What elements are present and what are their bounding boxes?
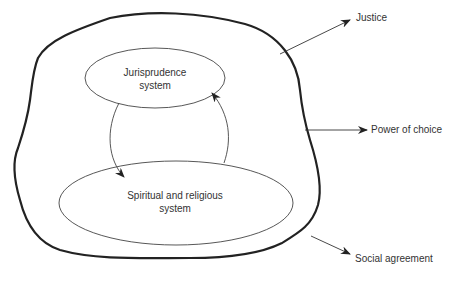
spiritual-line2: system <box>110 202 240 215</box>
outer-boundary <box>14 13 319 258</box>
diagram-canvas <box>0 0 458 282</box>
spiritual-label: Spiritual and religious system <box>110 189 240 215</box>
jurisprudence-line2: system <box>105 79 205 92</box>
flow-arrow-up <box>212 93 228 163</box>
jurisprudence-line1: Jurisprudence <box>105 66 205 79</box>
social-agreement-arrow <box>311 236 350 254</box>
jurisprudence-label: Jurisprudence system <box>105 66 205 92</box>
spiritual-line1: Spiritual and religious <box>110 189 240 202</box>
power-of-choice-label: Power of choice <box>371 123 442 136</box>
justice-arrow <box>280 20 350 54</box>
justice-label: Justice <box>356 11 387 24</box>
social-agreement-label: Social agreement <box>355 252 433 265</box>
